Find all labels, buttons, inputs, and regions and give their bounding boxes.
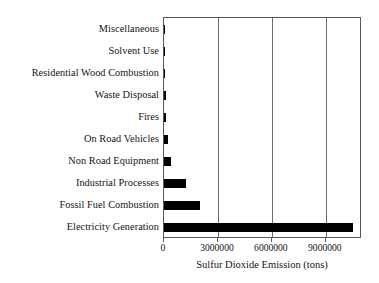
bar-chart: MiscellaneousSolvent UseResidential Wood… [0,0,379,283]
category-label: Solvent Use [0,45,159,56]
bar [164,157,171,166]
bar [164,135,168,144]
bar [164,201,200,210]
bar [164,91,166,100]
x-axis-title: Sulfur Dioxide Emission (tons) [163,259,361,271]
tick-label: 3000000 [200,242,234,253]
category-label: Waste Disposal [0,89,159,100]
bar [164,179,186,188]
value-axis-ticks: 0300000060000009000000 [163,238,361,256]
category-label: Industrial Processes [0,177,159,188]
bar [164,47,165,56]
tick-label: 0 [161,242,166,253]
category-label: Electricity Generation [0,221,159,232]
category-label: Miscellaneous [0,23,159,34]
category-label: Non Road Equipment [0,155,159,166]
bar [164,113,166,122]
category-label: Residential Wood Combustion [0,67,159,78]
category-label: Fossil Fuel Combustion [0,199,159,210]
bar [164,69,165,78]
category-label: Fires [0,111,159,122]
category-label: On Road Vehicles [0,133,159,144]
tick-label: 9000000 [308,242,342,253]
category-axis-labels: MiscellaneousSolvent UseResidential Wood… [0,17,159,238]
tick-label: 6000000 [254,242,288,253]
plot-area [163,17,361,238]
bar [164,223,353,232]
bar [164,25,165,34]
bar-series [164,18,360,237]
